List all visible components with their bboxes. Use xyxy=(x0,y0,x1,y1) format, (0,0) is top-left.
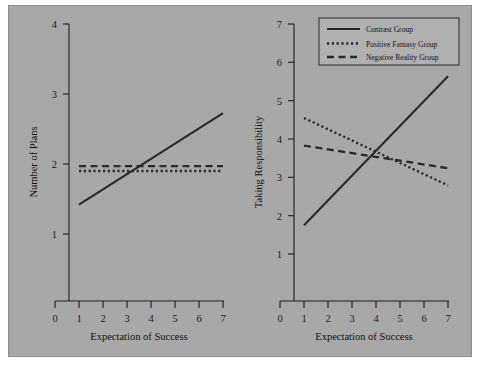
right-xticklabel-1: 1 xyxy=(301,313,306,324)
left-xticklabel-6: 6 xyxy=(196,313,201,324)
left-yticklabel-3: 3 xyxy=(52,89,57,100)
left-xticklabel-5: 5 xyxy=(172,313,177,324)
legend-label-positive-fantasy: Positive Fantasy Group xyxy=(366,40,437,49)
right-xticklabel-5: 5 xyxy=(397,313,402,324)
right-yticklabel-4: 4 xyxy=(277,134,283,145)
legend-label-negative-reality: Negative Reality Group xyxy=(366,53,439,62)
right-yticklabel-1: 1 xyxy=(277,249,282,260)
left-y-axis-title: Number of Plans xyxy=(28,126,39,197)
right-yticklabel-6: 6 xyxy=(277,57,282,68)
left-yticklabel-1: 1 xyxy=(52,229,57,240)
right-xticklabel-6: 6 xyxy=(421,313,426,324)
figure-frame: 4 3 2 1 0 1 2 3 4 5 6 7 xyxy=(8,5,472,357)
right-series-contrast xyxy=(304,76,448,225)
left-xticklabel-4: 4 xyxy=(148,313,154,324)
left-x-axis-title: Expectation of Success xyxy=(90,331,187,342)
right-yticklabel-5: 5 xyxy=(277,96,282,107)
figure-page: 4 3 2 1 0 1 2 3 4 5 6 7 xyxy=(0,0,482,367)
left-xticklabel-2: 2 xyxy=(100,313,105,324)
right-x-axis-title: Expectation of Success xyxy=(315,331,412,342)
right-xticklabel-2: 2 xyxy=(325,313,330,324)
left-xticklabel-7: 7 xyxy=(220,313,225,324)
right-yticklabel-2: 2 xyxy=(277,211,282,222)
left-yticklabel-4: 4 xyxy=(52,19,58,30)
left-series-contrast xyxy=(79,113,223,205)
chart-panel-right: 7 6 5 4 3 2 1 0 1 2 3 4 xyxy=(234,6,466,358)
right-y-axis-title: Taking Responsibility xyxy=(253,115,264,208)
left-xticklabel-3: 3 xyxy=(124,313,129,324)
right-yticklabel-7: 7 xyxy=(277,19,282,30)
legend: Contrast Group Positive Fantasy Group Ne… xyxy=(319,18,459,65)
chart-panel-left: 4 3 2 1 0 1 2 3 4 5 6 7 xyxy=(9,6,241,358)
right-yticklabel-3: 3 xyxy=(277,172,282,183)
right-xticklabel-3: 3 xyxy=(349,313,354,324)
right-xticklabel-0: 0 xyxy=(277,313,282,324)
right-xticklabel-4: 4 xyxy=(373,313,379,324)
left-yticklabel-2: 2 xyxy=(52,159,57,170)
right-series-negative-reality xyxy=(304,146,448,169)
right-xticklabel-7: 7 xyxy=(445,313,450,324)
legend-label-contrast: Contrast Group xyxy=(366,25,413,34)
left-xticklabel-1: 1 xyxy=(76,313,81,324)
left-plot-svg: 4 3 2 1 0 1 2 3 4 5 6 7 xyxy=(9,6,241,358)
left-xticklabel-0: 0 xyxy=(52,313,57,324)
right-plot-svg: 7 6 5 4 3 2 1 0 1 2 3 4 xyxy=(234,6,466,358)
